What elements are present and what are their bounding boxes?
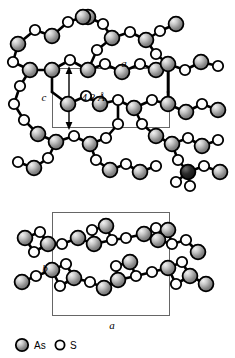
legend: As S — [16, 339, 77, 351]
axis-label-c-top: c — [42, 91, 47, 103]
legend-label-as: As — [34, 340, 46, 351]
axis-label-a-top: a — [121, 57, 127, 69]
s-atom-marker-icon — [55, 340, 64, 349]
as-atom-marker-icon — [16, 339, 28, 351]
interlayer-distance-label: 4.3 Å — [81, 91, 105, 103]
structure-drawing: a c 4.3 Å b a As S — [0, 0, 235, 358]
crystal-structure-figure: a c 4.3 Å b a As S — [0, 0, 235, 358]
axis-label-b-bottom: b — [42, 262, 48, 274]
highlighted-dark-atom — [181, 165, 196, 180]
legend-label-s: S — [70, 340, 77, 351]
axis-label-a-bottom: a — [109, 319, 115, 331]
